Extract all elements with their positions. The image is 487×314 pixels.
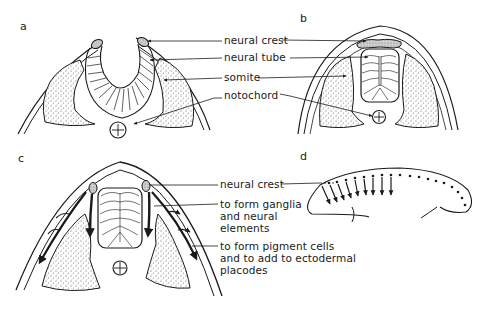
panel-d-migration-arrows xyxy=(322,177,391,204)
panel-a-drawing xyxy=(18,36,210,138)
label-pigment-line1: to form pigment cells xyxy=(220,240,356,252)
panel-letter-d: d xyxy=(300,150,307,163)
label-neural-crest-cd: neural crest xyxy=(220,178,284,190)
label-neural-tube: neural tube xyxy=(224,51,286,63)
panel-c-drawing xyxy=(16,162,222,296)
label-pigment: to form pigment cells and to add to ecto… xyxy=(220,240,356,276)
label-pigment-line3: placodes xyxy=(220,264,356,276)
label-neural-crest-ab: neural crest xyxy=(224,34,288,46)
label-pigment-line2: and to add to ectodermal xyxy=(220,252,356,264)
panel-d-drawing xyxy=(308,168,472,222)
label-ganglia-line1: to form ganglia xyxy=(220,198,302,210)
label-ganglia-line3: elements xyxy=(220,222,302,234)
panel-d-leader xyxy=(281,183,334,184)
panel-letter-a: a xyxy=(20,20,27,33)
figure-canvas: a b c d neural crest neural tube somite … xyxy=(0,0,487,314)
panel-letter-b: b xyxy=(300,12,307,25)
panel-letter-c: c xyxy=(18,152,24,165)
label-ganglia-line2: and neural xyxy=(220,210,302,222)
panel-b-drawing xyxy=(298,26,458,134)
label-somite: somite xyxy=(224,71,260,83)
label-ganglia: to form ganglia and neural elements xyxy=(220,198,302,234)
label-notochord: notochord xyxy=(224,89,278,101)
